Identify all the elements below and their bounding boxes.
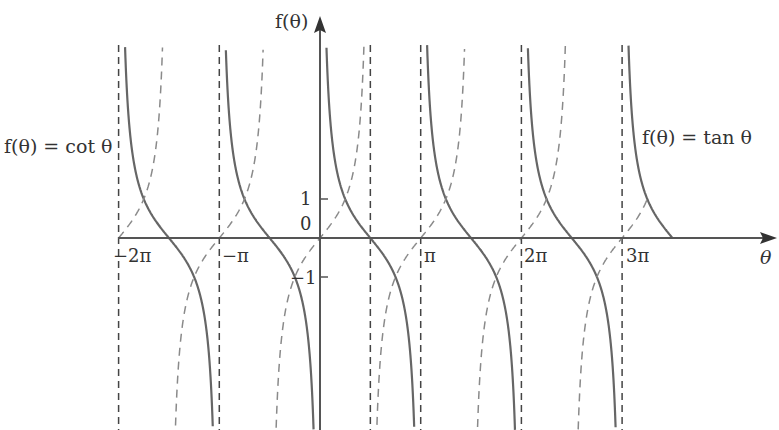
cot-annotation: f(θ) = cot θ [4,135,113,157]
x-tick-label-pi: π [424,245,436,266]
y-tick-label-neg1: −1 [290,267,317,288]
y-axis-label: f(θ) [275,10,308,32]
x-tick-label-neg2pi: −2π [113,245,152,266]
x-tick-label-negpi: −π [222,245,249,266]
trig-chart: f(θ) θ f(θ) = cot θ f(θ) = tan θ −2π −π … [0,0,779,430]
tan-annotation: f(θ) = tan θ [642,126,752,148]
y-tick-label-0: 0 [300,213,311,234]
x-tick-label-2pi: 2π [524,245,547,266]
x-tick-label-3pi: 3π [626,245,649,266]
x-axis-label: θ [760,246,772,268]
y-tick-label-1: 1 [300,188,311,209]
